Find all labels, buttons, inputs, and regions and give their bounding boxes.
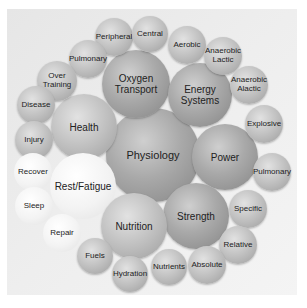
bubble-label: Peripheral xyxy=(96,33,132,42)
bubble-label: Recover xyxy=(18,168,48,177)
bubble-label: Absolute xyxy=(191,261,222,270)
bubble-label: Nutrition xyxy=(115,221,152,232)
bubble-label: Health xyxy=(70,122,99,133)
bubble-label: Injury xyxy=(24,136,44,145)
bubble-label: Nutrients xyxy=(153,263,185,272)
bubble-label: Oxygen Transport xyxy=(115,73,157,95)
bubble-label: Power xyxy=(211,152,239,163)
bubble-label: Hydration xyxy=(113,270,147,279)
bubble-label: Central xyxy=(137,30,163,39)
bubble-explosive: Explosive xyxy=(245,105,283,143)
bubble-label: Specific xyxy=(234,205,262,214)
bubble-fuels: Fuels xyxy=(77,238,113,274)
bubble-central: Central xyxy=(132,16,168,52)
bubble-recover: Recover xyxy=(14,153,52,191)
bubble-diagram: PhysiologyOxygen TransportEnergy Systems… xyxy=(0,0,307,308)
bubble-disease: Disease xyxy=(17,86,55,124)
bubble-label: Over Training xyxy=(43,72,72,90)
bubble-absolute: Absolute xyxy=(188,246,226,284)
bubble-label: Strength xyxy=(177,211,215,222)
bubble-hydration: Hydration xyxy=(112,256,148,292)
bubble-label: Energy Systems xyxy=(181,84,219,106)
bubble-label: Pulmonary xyxy=(69,55,107,64)
bubble-specific: Specific xyxy=(229,190,267,228)
bubble-label: Repair xyxy=(50,229,74,238)
bubble-label: Anaerobic Lactic xyxy=(205,47,241,65)
bubble-label: Anaerobic Alactic xyxy=(231,76,267,94)
bubble-pulmonary2: Pulmonary xyxy=(253,153,291,191)
bubble-oxygen: Oxygen Transport xyxy=(102,50,170,118)
bubble-anaerobic_alactic: Anaerobic Alactic xyxy=(230,66,268,104)
bubble-aerobic: Aerobic xyxy=(168,26,206,64)
bubble-label: Fuels xyxy=(85,252,105,261)
bubble-label: Sleep xyxy=(24,202,44,211)
bubble-label: Aerobic xyxy=(173,41,200,50)
bubble-label: Disease xyxy=(22,101,51,110)
bubble-label: Physiology xyxy=(126,149,179,161)
bubble-label: Explosive xyxy=(247,120,281,129)
bubble-label: Relative xyxy=(224,241,253,250)
bubble-label: Pulmonary xyxy=(253,168,291,177)
bubble-repair: Repair xyxy=(43,214,81,252)
bubble-nutrients: Nutrients xyxy=(151,249,187,285)
bubble-health: Health xyxy=(51,94,117,160)
bubble-label: Rest/Fatigue xyxy=(55,181,112,192)
